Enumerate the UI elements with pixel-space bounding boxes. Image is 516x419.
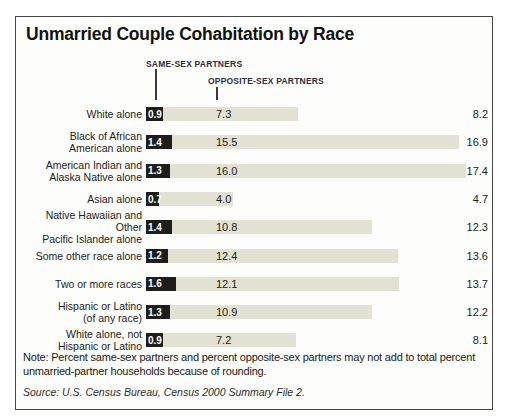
same-sex-bar: 1.4 [146, 220, 172, 234]
opposite-sex-value: 7.3 [216, 107, 231, 121]
chart-row: Native Hawaiian and OtherPacific Islande… [16, 213, 491, 241]
opposite-sex-bar [172, 220, 372, 234]
chart-row: Some other race alone 1.2 12.4 13.6 [16, 242, 491, 270]
same-sex-bar: 1.4 [146, 135, 172, 149]
bar-group: 1.4 10.8 [146, 220, 372, 234]
bar-group: 1.2 12.4 [146, 249, 398, 263]
bar-group: 1.4 15.5 [146, 135, 459, 149]
category-label: White alone [22, 100, 142, 128]
same-sex-value: 1.3 [146, 165, 162, 176]
same-sex-value: 0.9 [146, 109, 162, 120]
opposite-sex-value: 16.0 [216, 164, 237, 178]
category-label: Black of AfricanAmerican alone [22, 128, 142, 156]
same-sex-value: 0.9 [146, 335, 162, 346]
chart-row: White alone 0.9 7.3 8.2 [16, 100, 491, 128]
same-sex-legend-label: SAME-SEX PARTNERS [146, 59, 242, 69]
chart-row: Two or more races 1.6 12.1 13.7 [16, 270, 491, 298]
total-value: 13.7 [467, 277, 488, 291]
same-sex-bar: 1.3 [146, 305, 170, 319]
same-sex-leader-line [155, 69, 157, 100]
total-value: 16.9 [467, 135, 488, 149]
same-sex-bar: 1.2 [146, 249, 168, 263]
total-value: 4.7 [473, 192, 488, 206]
chart-row: White alone, notHispanic or Latino 0.9 7… [16, 326, 491, 354]
opposite-sex-value: 4.0 [216, 192, 231, 206]
same-sex-value: 1.4 [146, 222, 162, 233]
category-label: American Indian andAlaska Native alone [22, 157, 142, 185]
bar-group: 0.9 7.3 [146, 107, 298, 121]
category-label: White alone, notHispanic or Latino [22, 326, 142, 354]
opposite-sex-bar [172, 135, 459, 149]
opposite-sex-legend-label: OPPOSITE-SEX PARTNERS [208, 76, 324, 86]
opposite-sex-bar [170, 305, 372, 319]
opposite-sex-value: 7.2 [216, 333, 231, 347]
source-citation: Source: U.S. Census Bureau, Census 2000 … [23, 386, 305, 398]
opposite-sex-value: 12.4 [216, 249, 237, 263]
category-label: Some other race alone [22, 242, 142, 270]
total-value: 8.1 [473, 333, 488, 347]
chart-figure: Unmarried Couple Cohabitation by Race SA… [0, 0, 516, 419]
category-label: Native Hawaiian and OtherPacific Islande… [22, 213, 142, 241]
bar-group: 1.3 16.0 [146, 164, 466, 178]
opposite-sex-bar [176, 277, 400, 291]
total-value: 12.3 [467, 220, 488, 234]
opposite-sex-bar [168, 249, 397, 263]
same-sex-bar: 0.7 [146, 192, 159, 206]
bar-group: 1.6 12.1 [146, 277, 399, 291]
chart-title: Unmarried Couple Cohabitation by Race [26, 24, 354, 45]
category-label: Hispanic or Latino(of any race) [22, 298, 142, 326]
same-sex-value: 1.2 [146, 250, 162, 261]
bar-group: 0.7 4.0 [146, 192, 233, 206]
bar-group: 0.9 7.2 [146, 333, 296, 347]
chart-row: Hispanic or Latino(of any race) 1.3 10.9… [16, 298, 491, 326]
opposite-sex-bar [170, 164, 466, 178]
footnote: Note: Percent same-sex partners and perc… [23, 351, 487, 378]
same-sex-bar: 1.3 [146, 164, 170, 178]
same-sex-value: 1.6 [146, 278, 162, 289]
total-value: 12.2 [467, 305, 488, 319]
same-sex-bar: 0.9 [146, 107, 163, 121]
same-sex-value: 0.7 [146, 194, 162, 205]
opposite-sex-value: 12.1 [216, 277, 237, 291]
bar-group: 1.3 10.9 [146, 305, 372, 319]
opposite-sex-leader-line [216, 87, 218, 100]
same-sex-bar: 1.6 [146, 277, 176, 291]
category-label: Two or more races [22, 270, 142, 298]
same-sex-value: 1.4 [146, 137, 162, 148]
total-value: 13.6 [467, 249, 488, 263]
opposite-sex-value: 10.8 [216, 220, 237, 234]
chart-row: American Indian andAlaska Native alone 1… [16, 157, 491, 185]
chart-frame: Unmarried Couple Cohabitation by Race SA… [15, 16, 493, 410]
opposite-sex-value: 10.9 [216, 305, 237, 319]
same-sex-bar: 0.9 [146, 333, 163, 347]
total-value: 17.4 [467, 164, 488, 178]
chart-row: Black of AfricanAmerican alone 1.4 15.5 … [16, 128, 491, 156]
opposite-sex-value: 15.5 [216, 135, 237, 149]
same-sex-value: 1.3 [146, 307, 162, 318]
total-value: 8.2 [473, 107, 488, 121]
